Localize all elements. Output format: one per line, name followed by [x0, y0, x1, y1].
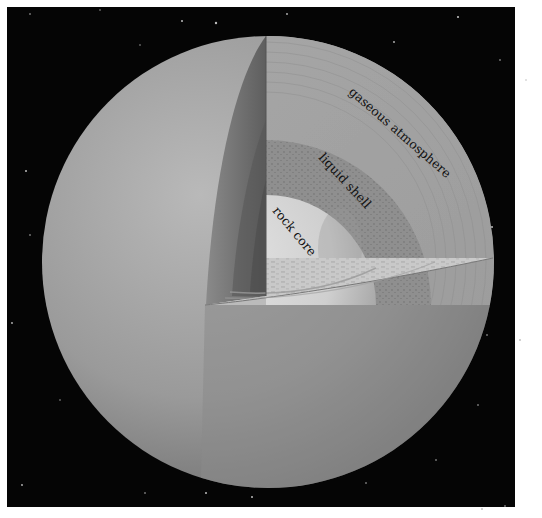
planet-cutaway-illustration: gaseous atmosphere liquid shell rock cor… [0, 0, 542, 518]
diagram-canvas: gaseous atmosphere liquid shell rock cor… [0, 0, 542, 518]
